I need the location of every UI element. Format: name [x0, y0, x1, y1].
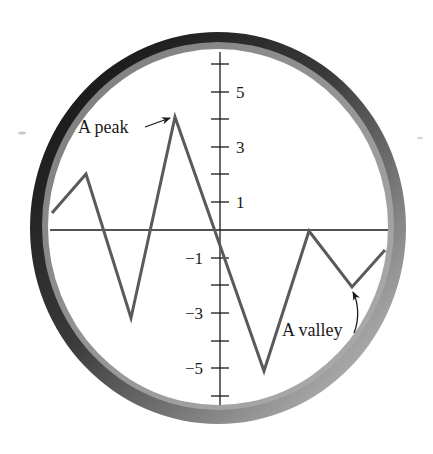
scope-svg: 5 3 1 −1 −3 −5 A peak A valley [0, 0, 433, 454]
valley-label: A valley [282, 320, 343, 340]
tick-label-neg5: −5 [185, 359, 203, 378]
tick-label-1: 1 [236, 193, 245, 212]
tick-label-neg1: −1 [185, 249, 203, 268]
peak-label: A peak [78, 117, 128, 137]
tick-label-5: 5 [236, 83, 245, 102]
oscilloscope-figure: 5 3 1 −1 −3 −5 A peak A valley [0, 0, 433, 454]
bezel [30, 32, 406, 424]
tick-label-neg3: −3 [185, 304, 203, 323]
tick-label-3: 3 [236, 138, 245, 157]
screen [48, 49, 388, 405]
smudge-mark [18, 132, 26, 135]
smudge-mark [417, 137, 423, 139]
